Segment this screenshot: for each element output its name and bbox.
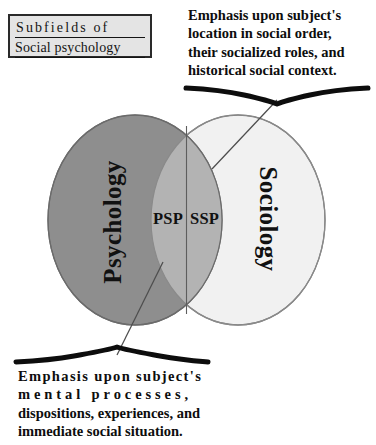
annotation-bottom-line-3: dispositions, experiences, and [18, 404, 202, 422]
ssp-label: SSP [190, 209, 219, 229]
annotation-top: Emphasis upon subject's location in soci… [188, 6, 345, 80]
bottom-brace [16, 347, 208, 362]
top-brace [186, 88, 368, 104]
annotation-top-line-4: historical social context. [188, 61, 345, 79]
annotation-bottom-line-1: Emphasis upon subject's [18, 367, 202, 385]
annotation-bottom-line-2: mental processes, [18, 385, 202, 403]
annotation-top-line-2: location in social order, [188, 24, 345, 42]
sociology-label: Sociology [254, 147, 282, 291]
psp-label: PSP [153, 209, 183, 229]
annotation-top-line-3: their socialized roles, and [188, 43, 345, 61]
figure-canvas: Subfields of Social psychology [0, 0, 376, 445]
annotation-bottom: Emphasis upon subject's mental processes… [18, 367, 202, 441]
annotation-top-line-1: Emphasis upon subject's [188, 6, 345, 24]
psychology-label: Psychology [99, 150, 127, 294]
annotation-bottom-line-4: immediate social situation. [18, 422, 202, 440]
